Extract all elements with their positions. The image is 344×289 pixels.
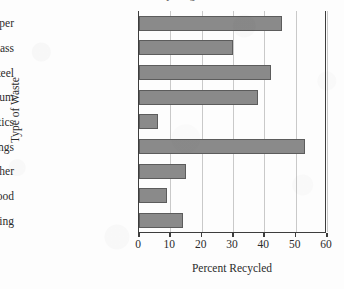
bar-glass	[139, 40, 233, 55]
x-tick-mark-40	[263, 233, 265, 237]
x-tick-label-20: 20	[188, 238, 214, 250]
bar-clothing	[139, 213, 183, 228]
y-tick-label-wood: Wood	[0, 190, 14, 202]
bar-row	[139, 11, 282, 36]
bar-steel	[139, 65, 271, 80]
y-tick-label-aluminum: Aluminum	[0, 91, 14, 103]
bar-row	[139, 36, 233, 61]
x-tick-label-60: 60	[313, 238, 339, 250]
x-tick-mark-20	[201, 233, 203, 237]
gridline-40	[264, 11, 265, 232]
bar-row	[139, 134, 305, 159]
x-tick-mark-50	[295, 233, 297, 237]
y-tick-label-steel: Steel	[0, 67, 14, 79]
x-axis-label: Percent Recycled	[138, 262, 326, 274]
x-tick-mark-10	[169, 233, 171, 237]
bar-rubber-and-leather	[139, 164, 186, 179]
gridline-30	[233, 11, 234, 232]
x-tick-mark-30	[232, 233, 234, 237]
bar-row	[139, 159, 186, 184]
y-tick-label-clothing: Clothing	[0, 215, 14, 227]
x-tick-mark-60	[326, 233, 328, 237]
bar-wood	[139, 188, 167, 203]
bar-row	[139, 110, 158, 135]
x-tick-label-0: 0	[125, 238, 151, 250]
bar-plastics	[139, 114, 158, 129]
bar-row	[139, 85, 258, 110]
bar-chart-figure: Type of Waste Percent Recycled PaperGlas…	[0, 0, 344, 289]
bar-aluminum	[139, 90, 258, 105]
bar-row	[139, 60, 271, 85]
gridline-50	[296, 11, 297, 232]
y-tick-label-paper: Paper	[0, 17, 14, 29]
y-tick-label-yard-trimmings: Yard trimmings	[0, 141, 14, 153]
x-tick-label-30: 30	[219, 238, 245, 250]
bar-row	[139, 208, 183, 233]
x-tick-label-50: 50	[282, 238, 308, 250]
y-tick-label-plastics: Plastics	[0, 116, 14, 128]
x-tick-label-10: 10	[156, 238, 182, 250]
bar-row	[139, 184, 167, 209]
gridline-60	[327, 11, 328, 232]
y-tick-label-glass: Glass	[0, 42, 14, 54]
x-tick-label-40: 40	[250, 238, 276, 250]
x-tick-mark-0	[138, 233, 140, 237]
y-tick-label-rubber-and-leather: Rubber and Leather	[0, 165, 14, 177]
bar-yard-trimmings	[139, 139, 305, 154]
plot-area	[138, 11, 326, 233]
bar-paper	[139, 16, 282, 31]
